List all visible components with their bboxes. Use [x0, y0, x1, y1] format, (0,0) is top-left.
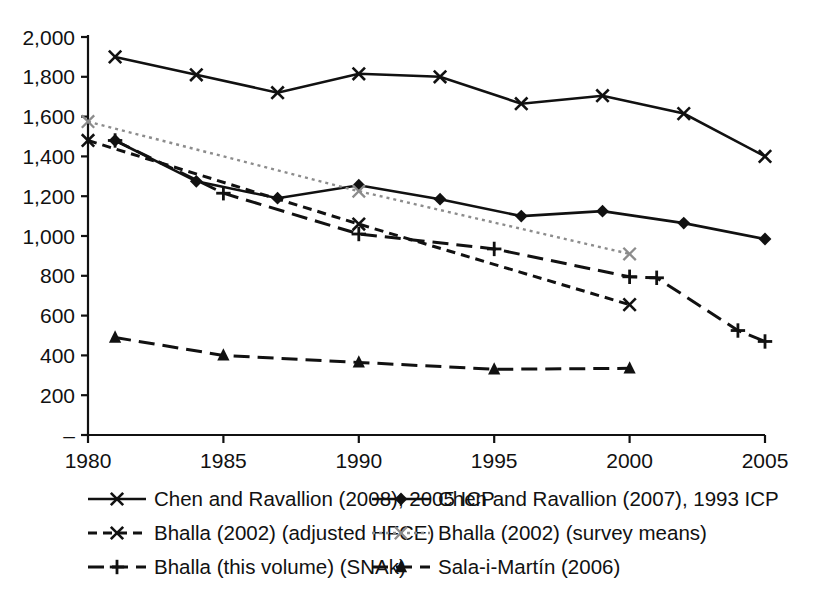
- chart-series-1: [109, 134, 772, 245]
- y-tick-label: 1,200: [22, 185, 75, 208]
- y-tick-label: 800: [40, 264, 75, 287]
- chart-svg: –2004006008001,0001,2001,4001,6001,8002,…: [0, 0, 829, 480]
- legend-marker-icon: [370, 489, 432, 509]
- chart-series-5: [109, 330, 636, 374]
- x-tick-label: 1990: [335, 449, 382, 472]
- chart-series-0: [109, 51, 771, 163]
- chart-plot-area: –2004006008001,0001,2001,4001,6001,8002,…: [0, 0, 829, 480]
- legend-label: Sala-i-Martín (2006): [438, 557, 620, 577]
- y-tick-label: 1,400: [22, 145, 75, 168]
- series-line: [115, 57, 765, 156]
- legend-row: Bhalla (2002) (adjusted HFCE)Bhalla (200…: [0, 516, 829, 550]
- x-tick-label: 2005: [742, 449, 789, 472]
- legend-marker-icon: [86, 557, 148, 577]
- y-tick-label: 1,000: [22, 225, 75, 248]
- x-tick-label: 2000: [606, 449, 653, 472]
- legend-row: Chen and Ravallion (2008), 2005 ICPChen …: [0, 482, 829, 516]
- chart-figure: –2004006008001,0001,2001,4001,6001,8002,…: [0, 0, 829, 599]
- chart-legend: Chen and Ravallion (2008), 2005 ICPChen …: [0, 482, 829, 599]
- y-tick-label: 2,000: [22, 26, 75, 49]
- legend-label: Bhalla (2002) (survey means): [438, 523, 707, 543]
- y-axis-ticks: –2004006008001,0001,2001,4001,6001,8002,…: [22, 26, 88, 447]
- legend-item[interactable]: Bhalla (2002) (adjusted HFCE): [0, 523, 370, 543]
- legend-marker-icon: [370, 523, 432, 543]
- y-tick-label: 400: [40, 344, 75, 367]
- legend-marker-icon: [86, 523, 148, 543]
- legend-marker-icon: [370, 557, 432, 577]
- legend-item[interactable]: Bhalla (this volume) (SNAk): [0, 557, 370, 577]
- series-line: [115, 141, 765, 342]
- legend-item[interactable]: Chen and Ravallion (2007), 1993 ICP: [370, 489, 743, 509]
- series-line: [115, 141, 765, 240]
- legend-item[interactable]: Sala-i-Martín (2006): [370, 557, 743, 577]
- legend-marker-icon: [86, 489, 148, 509]
- legend-item[interactable]: Bhalla (2002) (survey means): [370, 523, 743, 543]
- legend-label: Bhalla (this volume) (SNAk): [154, 557, 406, 577]
- series-line: [115, 338, 630, 370]
- x-axis-ticks: 198019851990199520002005: [65, 435, 789, 472]
- chart-series-2: [82, 134, 636, 311]
- chart-axes: [88, 35, 765, 435]
- y-tick-label: 1,600: [22, 105, 75, 128]
- legend-row: Bhalla (this volume) (SNAk)Sala-i-Martín…: [0, 550, 829, 584]
- x-tick-label: 1980: [65, 449, 112, 472]
- x-tick-label: 1995: [471, 449, 518, 472]
- chart-series-4: [108, 133, 772, 348]
- y-tick-label: –: [63, 424, 75, 447]
- y-tick-label: 600: [40, 304, 75, 327]
- legend-label: Chen and Ravallion (2007), 1993 ICP: [438, 489, 779, 509]
- x-tick-label: 1985: [200, 449, 247, 472]
- y-tick-label: 200: [40, 384, 75, 407]
- legend-item[interactable]: Chen and Ravallion (2008), 2005 ICP: [0, 489, 370, 509]
- y-tick-label: 1,800: [22, 65, 75, 88]
